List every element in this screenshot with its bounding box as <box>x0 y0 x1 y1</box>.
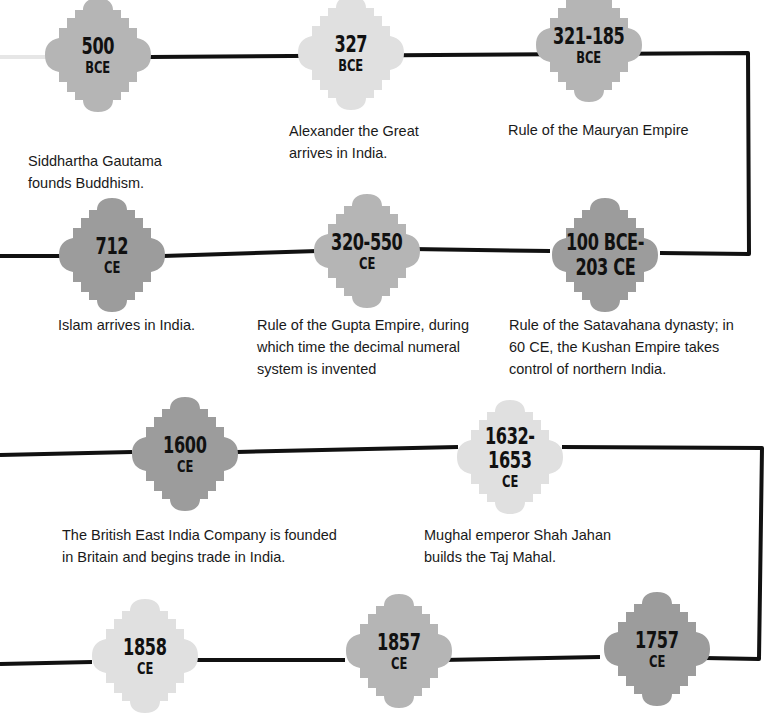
event-node-327-bce: 327BCE <box>296 0 406 112</box>
event-era: 203 CE <box>575 255 635 280</box>
event-era: CE <box>137 660 153 677</box>
event-node-320-550-ce: 320-550CE <box>312 192 422 310</box>
event-node-1757-ce: 1757CE <box>602 590 712 708</box>
event-date-end: 1653 <box>488 448 531 473</box>
event-node-100-bce-203-ce: 100 BCE-203 CE <box>550 196 660 314</box>
event-node-1632-1653-ce: 1632-1653CE <box>455 398 565 516</box>
event-description-1600-ce: The British East India Company is founde… <box>62 524 337 568</box>
event-node-712-ce: 712CE <box>57 196 167 314</box>
event-description-1632-1653-ce: Mughal emperor Shah Jahanbuilds the Taj … <box>424 524 611 568</box>
event-date: 1600 <box>163 433 206 458</box>
event-date: 327 <box>335 32 368 57</box>
event-era: BCE <box>338 57 363 74</box>
event-era: CE <box>391 655 407 672</box>
event-node-1600-ce: 1600CE <box>130 395 240 513</box>
event-node-500-bce: 500BCE <box>43 0 153 114</box>
event-date: 321-185 <box>553 24 624 49</box>
event-description-327-bce: Alexander the Greatarrives in India. <box>289 120 419 164</box>
event-date: 1632- <box>485 424 535 449</box>
event-era: CE <box>359 255 375 272</box>
event-date: 1857 <box>377 630 420 655</box>
event-description-321-185-bce: Rule of the Mauryan Empire <box>508 119 689 141</box>
event-date: 100 BCE- <box>566 230 644 255</box>
event-era: BCE <box>85 59 110 76</box>
event-node-1857-ce: 1857CE <box>344 592 454 710</box>
event-date: 500 <box>82 34 115 59</box>
event-era: CE <box>649 653 665 670</box>
event-description-712-ce: Islam arrives in India. <box>58 314 195 336</box>
event-date: 1858 <box>123 635 166 660</box>
event-node-1858-ce: 1858CE <box>90 597 200 715</box>
event-era: CE <box>502 473 518 490</box>
event-era: BCE <box>576 49 601 66</box>
event-date: 712 <box>96 234 129 259</box>
event-description-500-bce: Siddhartha Gautamafounds Buddhism. <box>28 150 162 194</box>
event-era: CE <box>104 259 120 276</box>
event-date: 1757 <box>635 628 678 653</box>
event-description-100-bce-203-ce: Rule of the Satavahana dynasty; in60 CE,… <box>509 314 734 380</box>
event-era: CE <box>177 458 193 475</box>
event-node-321-185-bce: 321-185BCE <box>534 0 644 104</box>
event-description-320-550-ce: Rule of the Gupta Empire, duringwhich ti… <box>257 314 469 380</box>
event-date: 320-550 <box>331 230 402 255</box>
